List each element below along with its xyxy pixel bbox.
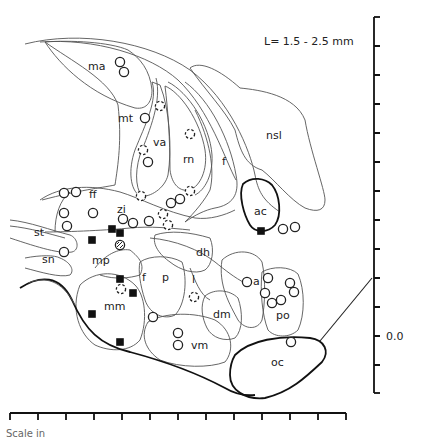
label-ff: ff — [89, 188, 97, 201]
label-p: p — [162, 271, 169, 284]
open-circle-icon — [276, 295, 285, 304]
filled-square-icon — [88, 310, 96, 318]
label-st: st — [34, 226, 45, 239]
open-circle-icon — [144, 216, 153, 225]
open-circle-icon — [115, 57, 124, 66]
open-circle-icon — [286, 337, 295, 346]
open-circle-icon — [173, 328, 182, 337]
open-circle-icon — [278, 224, 287, 233]
label-f-upper: f — [222, 155, 227, 168]
dashed-circle-icon — [163, 220, 172, 229]
label-ac: ac — [254, 205, 267, 218]
open-circle-icon — [62, 221, 71, 230]
filled-square-icon — [116, 338, 124, 346]
open-circle-icon — [263, 273, 272, 282]
open-circle-icon — [242, 277, 251, 286]
footer-label: Scale in — [6, 428, 45, 439]
open-circle-icon — [118, 214, 127, 223]
hatched-circle-icon — [115, 240, 124, 249]
dashed-circle-icon — [116, 284, 125, 293]
horizontal-scale-bar — [10, 413, 346, 420]
label-oc: oc — [271, 356, 284, 369]
open-circle-icon — [289, 287, 298, 296]
open-circle-icon — [173, 340, 182, 349]
dashed-circle-icon — [136, 191, 145, 200]
dashed-circle-icon — [189, 292, 198, 301]
label-rn: rn — [183, 153, 194, 166]
open-circle-icon — [290, 222, 299, 231]
filled-square-icon — [257, 227, 265, 235]
open-circle-icon — [128, 218, 137, 227]
label-mt: mt — [118, 112, 134, 125]
filled-square-icon — [116, 275, 124, 283]
open-circle-icon — [59, 247, 68, 256]
dashed-circle-icon — [155, 101, 164, 110]
open-circle-icon — [148, 312, 157, 321]
dashed-circle-icon — [138, 145, 147, 154]
open-circle-icon — [59, 188, 68, 197]
dashed-circle-icon — [158, 209, 167, 218]
label-po: po — [276, 309, 290, 322]
label-f-lower: f — [142, 271, 147, 284]
label-dh: dh — [196, 246, 210, 259]
open-circle-icon — [175, 194, 184, 203]
filled-square-icon — [108, 225, 116, 233]
dashed-circle-icon — [185, 186, 194, 195]
label-mp: mp — [92, 254, 110, 267]
open-circle-icon — [143, 157, 152, 166]
label-nsl: nsl — [266, 129, 282, 142]
label-sn: sn — [42, 253, 55, 266]
dashed-circle-icon — [185, 129, 194, 138]
open-circle-icon — [267, 298, 276, 307]
label-ma: ma — [88, 60, 105, 73]
open-circle-icon — [166, 198, 175, 207]
label-a: a — [253, 275, 260, 288]
label-va: va — [153, 136, 166, 149]
open-circle-icon — [71, 187, 80, 196]
vertical-scale-zero-label: 0.0 — [386, 330, 404, 343]
label-mm: mm — [104, 300, 125, 313]
open-circle-icon — [119, 67, 128, 76]
open-circle-icon — [59, 208, 68, 217]
filled-square-icon — [129, 289, 137, 297]
hypothalamus-section-diagram: ma mt va rn f nsl ac ff zi st sn mp f p … — [0, 0, 421, 439]
open-circle-icon — [260, 288, 269, 297]
label-dm: dm — [213, 308, 231, 321]
label-vm: vm — [191, 339, 208, 352]
label-l: l — [192, 273, 195, 286]
open-circle-icon — [140, 113, 149, 122]
vertical-scale-bar: 0.0 — [374, 17, 404, 393]
figure-title: L= 1.5 - 2.5 mm — [264, 35, 354, 48]
filled-square-icon — [88, 236, 96, 244]
open-circle-icon — [88, 208, 97, 217]
filled-square-icon — [116, 229, 124, 237]
open-circle-icon — [285, 278, 294, 287]
